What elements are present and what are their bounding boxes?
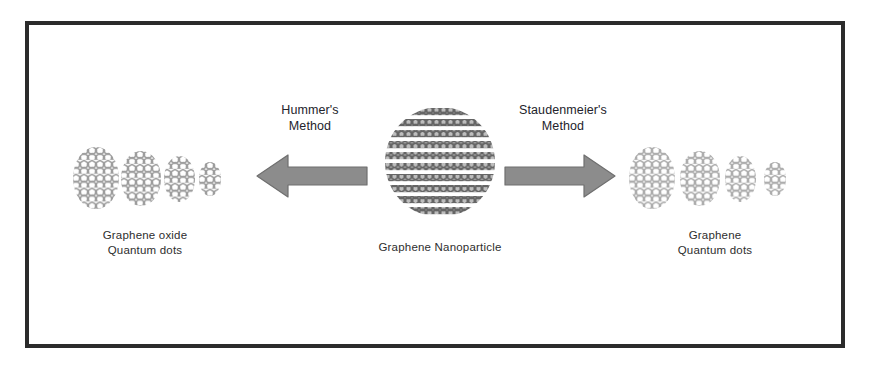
graphene-dot-3 <box>724 155 757 203</box>
hummers-method-label: Hummer's Method <box>245 102 375 134</box>
graphene-nanoparticle-label: Graphene Nanoparticle <box>350 240 530 255</box>
graphene-oxide-dot-4 <box>198 161 222 197</box>
arrow-left-icon <box>254 151 370 201</box>
graphene-oxide-dot-2 <box>120 150 162 207</box>
arrow-right-icon <box>502 151 618 201</box>
graphene-dot-2 <box>679 150 721 207</box>
graphene-oxide-quantum-dots-label: Graphene oxide Quantum dots <box>55 228 235 258</box>
graphene-oxide-dot-3 <box>163 155 196 203</box>
figure-root: Graphene oxide Quantum dots Hummer's Met… <box>0 0 870 367</box>
graphene-dot-4 <box>763 161 787 197</box>
staudenmeiers-method-label: Staudenmeier's Method <box>487 102 639 134</box>
graphene-quantum-dots-cluster <box>628 144 768 212</box>
graphene-oxide-quantum-dots-cluster <box>72 144 208 212</box>
graphene-oxide-dot-1 <box>72 146 120 210</box>
graphene-quantum-dots-label: Graphene Quantum dots <box>635 228 795 258</box>
graphene-nanoparticle <box>384 106 496 218</box>
graphene-dot-1 <box>628 146 676 210</box>
